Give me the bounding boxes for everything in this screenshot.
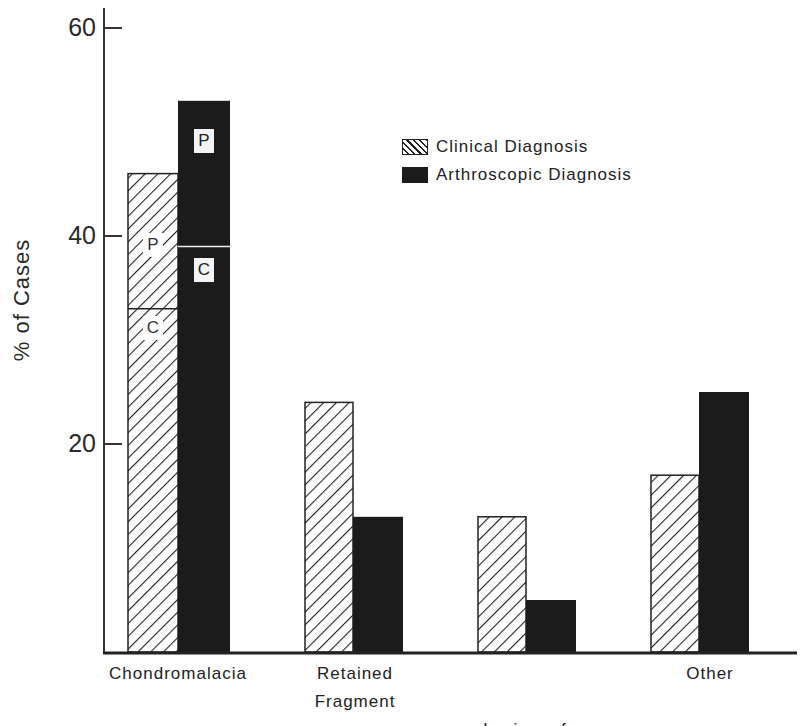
segment-label-c: C: [194, 258, 214, 282]
legend-item-arthroscopic: Arthroscopic Diagnosis: [402, 165, 632, 185]
y-ticks: [104, 28, 122, 444]
category-label-lesion-other-meniscus: Lesion of Other Meniscus: [440, 660, 610, 726]
bar-arthroscopic-0: [178, 101, 230, 652]
bar-clinical-3: [651, 475, 699, 652]
category-label-chondromalacia: Chondromalacia: [98, 660, 258, 688]
y-axis-label: % of Cases: [9, 239, 35, 362]
category-label-retained-fragment: Retained Fragment: [300, 660, 410, 716]
bar-arthroscopic-3: [699, 392, 749, 652]
solid-swatch-icon: [402, 167, 428, 183]
plot-area: [0, 0, 810, 726]
bar-arthroscopic-2: [526, 600, 576, 652]
legend-label-arthroscopic: Arthroscopic Diagnosis: [436, 165, 632, 185]
segment-label-c: C: [143, 316, 163, 340]
bar-chart: 60 40 20 % of Cases Clinical Diagnosis A…: [0, 0, 810, 726]
category-label-other: Other: [660, 660, 760, 688]
legend-label-clinical: Clinical Diagnosis: [436, 137, 588, 157]
hatch-swatch-icon: [402, 139, 428, 155]
segment-label-p: P: [194, 129, 214, 153]
y-tick-label-20: 20: [36, 429, 96, 458]
y-tick-label-60: 60: [36, 13, 96, 42]
bar-clinical-1: [305, 402, 353, 652]
bar-clinical-2: [478, 517, 526, 652]
y-tick-label-40: 40: [36, 221, 96, 250]
bar-arthroscopic-1: [353, 517, 403, 652]
segment-label-p: P: [143, 233, 163, 257]
legend-item-clinical: Clinical Diagnosis: [402, 137, 588, 157]
